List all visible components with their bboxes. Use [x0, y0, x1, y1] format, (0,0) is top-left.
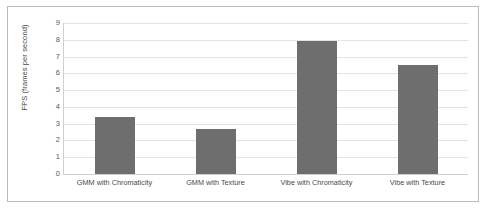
gridline-0 [64, 174, 468, 175]
bar-1 [196, 129, 236, 174]
category-label-3: Vibe with Texture [367, 179, 468, 188]
y-tick-label-1: 1 [40, 153, 60, 161]
category-label-2: Vibe with Chromaticity [266, 179, 367, 188]
gridline-7 [64, 57, 468, 58]
bar-0 [95, 117, 135, 174]
category-label-0: GMM with Chromaticity [64, 179, 165, 188]
y-axis-title: FPS (frames per second) [20, 8, 29, 128]
y-tick-label-4: 4 [40, 103, 60, 111]
gridline-8 [64, 40, 468, 41]
y-tick-label-3: 3 [40, 120, 60, 128]
x-axis-category-labels: GMM with ChromaticityGMM with TextureVib… [64, 179, 468, 195]
y-tick-label-0: 0 [40, 170, 60, 178]
bar-2 [297, 41, 337, 174]
y-tick-label-2: 2 [40, 136, 60, 144]
plot-area [64, 23, 468, 174]
y-tick-label-6: 6 [40, 69, 60, 77]
y-tick-label-8: 8 [40, 36, 60, 44]
chart-frame: FPS (frames per second) 0123456789 GMM w… [7, 6, 479, 202]
category-label-1: GMM with Texture [165, 179, 266, 188]
y-tick-label-5: 5 [40, 86, 60, 94]
gridline-9 [64, 23, 468, 24]
y-axis-tick-labels: 0123456789 [38, 23, 60, 174]
y-tick-label-7: 7 [40, 53, 60, 61]
bar-3 [398, 65, 438, 174]
y-tick-label-9: 9 [40, 19, 60, 27]
